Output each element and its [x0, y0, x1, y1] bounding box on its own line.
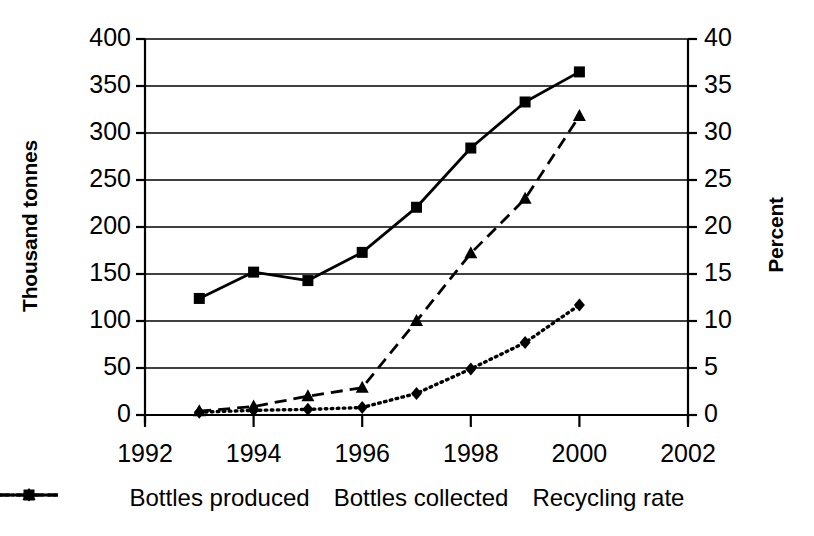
legend-item-label: Bottles collected	[334, 486, 509, 510]
data-point-triangle	[573, 109, 586, 121]
data-point-square	[302, 275, 313, 286]
data-point-square	[357, 247, 368, 258]
data-point-diamond	[520, 336, 531, 349]
data-point-square	[574, 66, 585, 77]
data-point-diamond	[574, 299, 585, 312]
data-point-square	[194, 293, 205, 304]
data-point-diamond	[411, 387, 422, 400]
data-point-square	[411, 202, 422, 213]
data-point-square	[248, 267, 259, 278]
legend-item-label: Bottles produced	[130, 486, 310, 510]
legend-item-label: Recycling rate	[532, 486, 684, 510]
series-line	[199, 116, 579, 411]
legend-item-bottles-collected[interactable]: Bottles collected	[334, 486, 509, 510]
chart-legend: Bottles producedBottles collectedRecycli…	[0, 486, 814, 510]
legend-swatch-dashed-triangle	[0, 486, 58, 504]
series-recycling-rate	[193, 109, 586, 416]
data-point-square	[465, 143, 476, 154]
data-point-diamond	[465, 362, 476, 375]
chart-container: Thousand tonnes Percent 0501001502002503…	[0, 0, 814, 536]
legend-item-recycling-rate[interactable]: Recycling rate	[532, 486, 684, 510]
series-bottles-produced	[194, 299, 585, 419]
plot-area	[0, 0, 814, 536]
data-point-square	[520, 96, 531, 107]
legend-item-bottles-produced[interactable]: Bottles produced	[130, 486, 310, 510]
series-bottles-collected	[194, 66, 585, 304]
data-point-diamond	[357, 401, 368, 414]
